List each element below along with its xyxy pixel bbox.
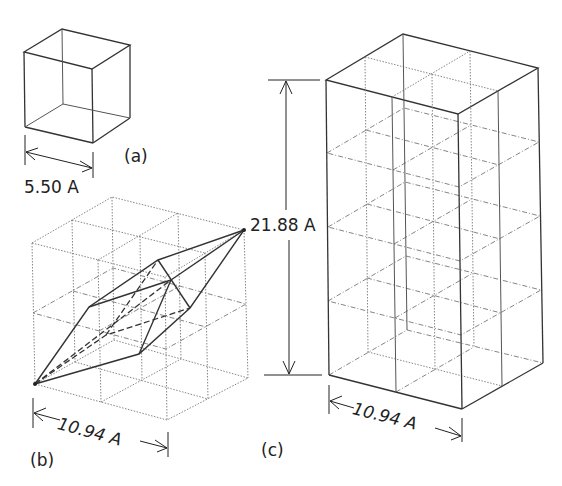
panel-label-b: (b) [30, 450, 54, 470]
dimension-a [25, 135, 93, 178]
dimension-label-a: 5.50 A [24, 177, 79, 197]
cube-b-grid [32, 197, 248, 420]
cube-a [24, 29, 130, 143]
dimension-label-c-height: 21.88 A [250, 215, 316, 235]
crystal-cell-diagram [0, 0, 562, 486]
box-c [326, 34, 543, 409]
panel-label-a: (a) [124, 146, 148, 166]
panel-label-c: (c) [261, 440, 284, 460]
